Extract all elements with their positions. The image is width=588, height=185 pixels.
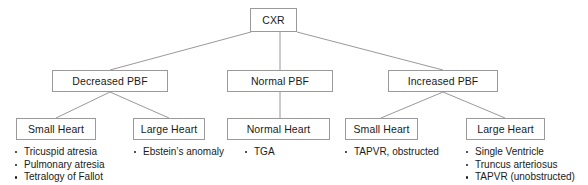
node-decreased-large-heart-label: Large Heart — [141, 124, 198, 135]
bullet-icon — [345, 151, 347, 153]
diagnosis-label: TAPVR (unobstructed) — [475, 171, 575, 182]
diagnosis-list-increased-large-heart: Single Ventricle Truncus arteriosus TAPV… — [466, 146, 575, 184]
diagnosis-list-normal-normal-heart: TGA — [245, 146, 275, 159]
edge-increased-to-large-heart — [443, 92, 505, 118]
bullet-icon — [245, 151, 247, 153]
edge-decreased-to-small-heart — [56, 92, 110, 118]
node-normal-normal-heart-label: Normal Heart — [247, 124, 311, 135]
cxr-decision-tree-diagram: CXR Decreased PBF Normal PBF Increased P… — [0, 0, 588, 185]
edge-increased-to-small-heart — [381, 92, 443, 118]
diagnosis-label: Tricuspid atresia — [24, 146, 97, 157]
list-item: Tetralogy of Fallot — [15, 171, 105, 184]
diagnosis-label: TAPVR, obstructed — [354, 146, 439, 157]
edge-cxr-to-decreased-pbf — [110, 32, 251, 70]
list-item: TAPVR (unobstructed) — [466, 171, 575, 184]
node-cxr[interactable]: CXR — [250, 8, 297, 32]
node-increased-large-heart[interactable]: Large Heart — [466, 118, 545, 140]
list-item: TGA — [245, 146, 275, 159]
edge-cxr-to-increased-pbf — [297, 32, 443, 70]
list-item: Single Ventricle — [466, 146, 575, 159]
list-item: Truncus arteriosus — [466, 159, 575, 172]
list-item: Pulmonary atresia — [15, 159, 105, 172]
diagnosis-list-decreased-large-heart: Ebstein’s anomaly — [134, 146, 224, 159]
node-decreased-pbf[interactable]: Decreased PBF — [52, 70, 168, 92]
diagnosis-label: Truncus arteriosus — [475, 159, 557, 170]
node-normal-normal-heart[interactable]: Normal Heart — [227, 118, 330, 140]
diagnosis-label: Pulmonary atresia — [24, 159, 105, 170]
bullet-icon — [15, 176, 17, 178]
node-increased-small-heart-label: Small Heart — [354, 124, 410, 135]
bullet-icon — [15, 151, 17, 153]
node-increased-pbf-label: Increased PBF — [408, 76, 479, 87]
node-decreased-small-heart[interactable]: Small Heart — [16, 118, 96, 140]
diagnosis-list-decreased-small-heart: Tricuspid atresia Pulmonary atresia Tetr… — [15, 146, 105, 184]
bullet-icon — [466, 164, 468, 166]
node-increased-pbf[interactable]: Increased PBF — [388, 70, 498, 92]
bullet-icon — [15, 164, 17, 166]
diagnosis-list-increased-small-heart: TAPVR, obstructed — [345, 146, 439, 159]
node-decreased-large-heart[interactable]: Large Heart — [133, 118, 205, 140]
list-item: TAPVR, obstructed — [345, 146, 439, 159]
list-item: Tricuspid atresia — [15, 146, 105, 159]
node-decreased-small-heart-label: Small Heart — [28, 124, 84, 135]
node-increased-large-heart-label: Large Heart — [477, 124, 534, 135]
diagnosis-label: TGA — [254, 146, 275, 157]
node-cxr-label: CXR — [262, 15, 284, 26]
node-normal-pbf[interactable]: Normal PBF — [227, 70, 333, 92]
node-increased-small-heart[interactable]: Small Heart — [345, 118, 418, 140]
node-decreased-pbf-label: Decreased PBF — [72, 76, 147, 87]
list-item: Ebstein’s anomaly — [134, 146, 224, 159]
diagnosis-label: Tetralogy of Fallot — [24, 171, 103, 182]
diagnosis-label: Single Ventricle — [475, 146, 544, 157]
bullet-icon — [466, 176, 468, 178]
bullet-icon — [466, 151, 468, 153]
bullet-icon — [134, 151, 136, 153]
node-normal-pbf-label: Normal PBF — [251, 76, 309, 87]
edge-decreased-to-large-heart — [110, 92, 169, 118]
diagnosis-label: Ebstein’s anomaly — [143, 146, 224, 157]
